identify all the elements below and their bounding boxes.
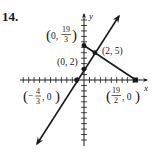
label-point-0-2: (0, 2) xyxy=(57,57,78,68)
svg-text:): ) xyxy=(135,88,140,105)
svg-text:3: 3 xyxy=(36,97,40,106)
svg-text:4: 4 xyxy=(36,87,40,96)
svg-text:): ) xyxy=(72,27,77,44)
coordinate-graph: x y xyxy=(0,0,158,158)
svg-text:, 0: , 0 xyxy=(122,92,132,102)
point-0-19/3 xyxy=(82,43,87,48)
y-axis-label: y xyxy=(88,11,93,21)
y-axis: y xyxy=(81,11,93,146)
svg-text:): ) xyxy=(55,88,60,105)
svg-text:3: 3 xyxy=(64,35,68,44)
label-point-0-19/3: ( 0, 19 3 ) xyxy=(46,25,77,44)
svg-text:19: 19 xyxy=(62,25,70,34)
svg-text:0,: 0, xyxy=(51,31,58,41)
svg-text:−: − xyxy=(28,91,33,101)
point-0-2 xyxy=(82,67,87,72)
svg-text:2: 2 xyxy=(114,96,118,105)
svg-text:19: 19 xyxy=(112,86,120,95)
label-point-neg4/3-0: ( − 4 3 , 0 ) xyxy=(23,87,60,106)
svg-text:, 0: , 0 xyxy=(42,92,52,102)
svg-text:(: ( xyxy=(106,88,111,105)
point-neg4/3-0 xyxy=(74,78,79,83)
x-axis-label: x xyxy=(143,83,148,93)
point-2-5 xyxy=(93,50,98,55)
point-19/2-0 xyxy=(133,78,138,83)
label-point-19/2-0: ( 19 2 , 0 ) xyxy=(106,86,140,105)
label-point-2-5: (2, 5) xyxy=(102,46,123,57)
